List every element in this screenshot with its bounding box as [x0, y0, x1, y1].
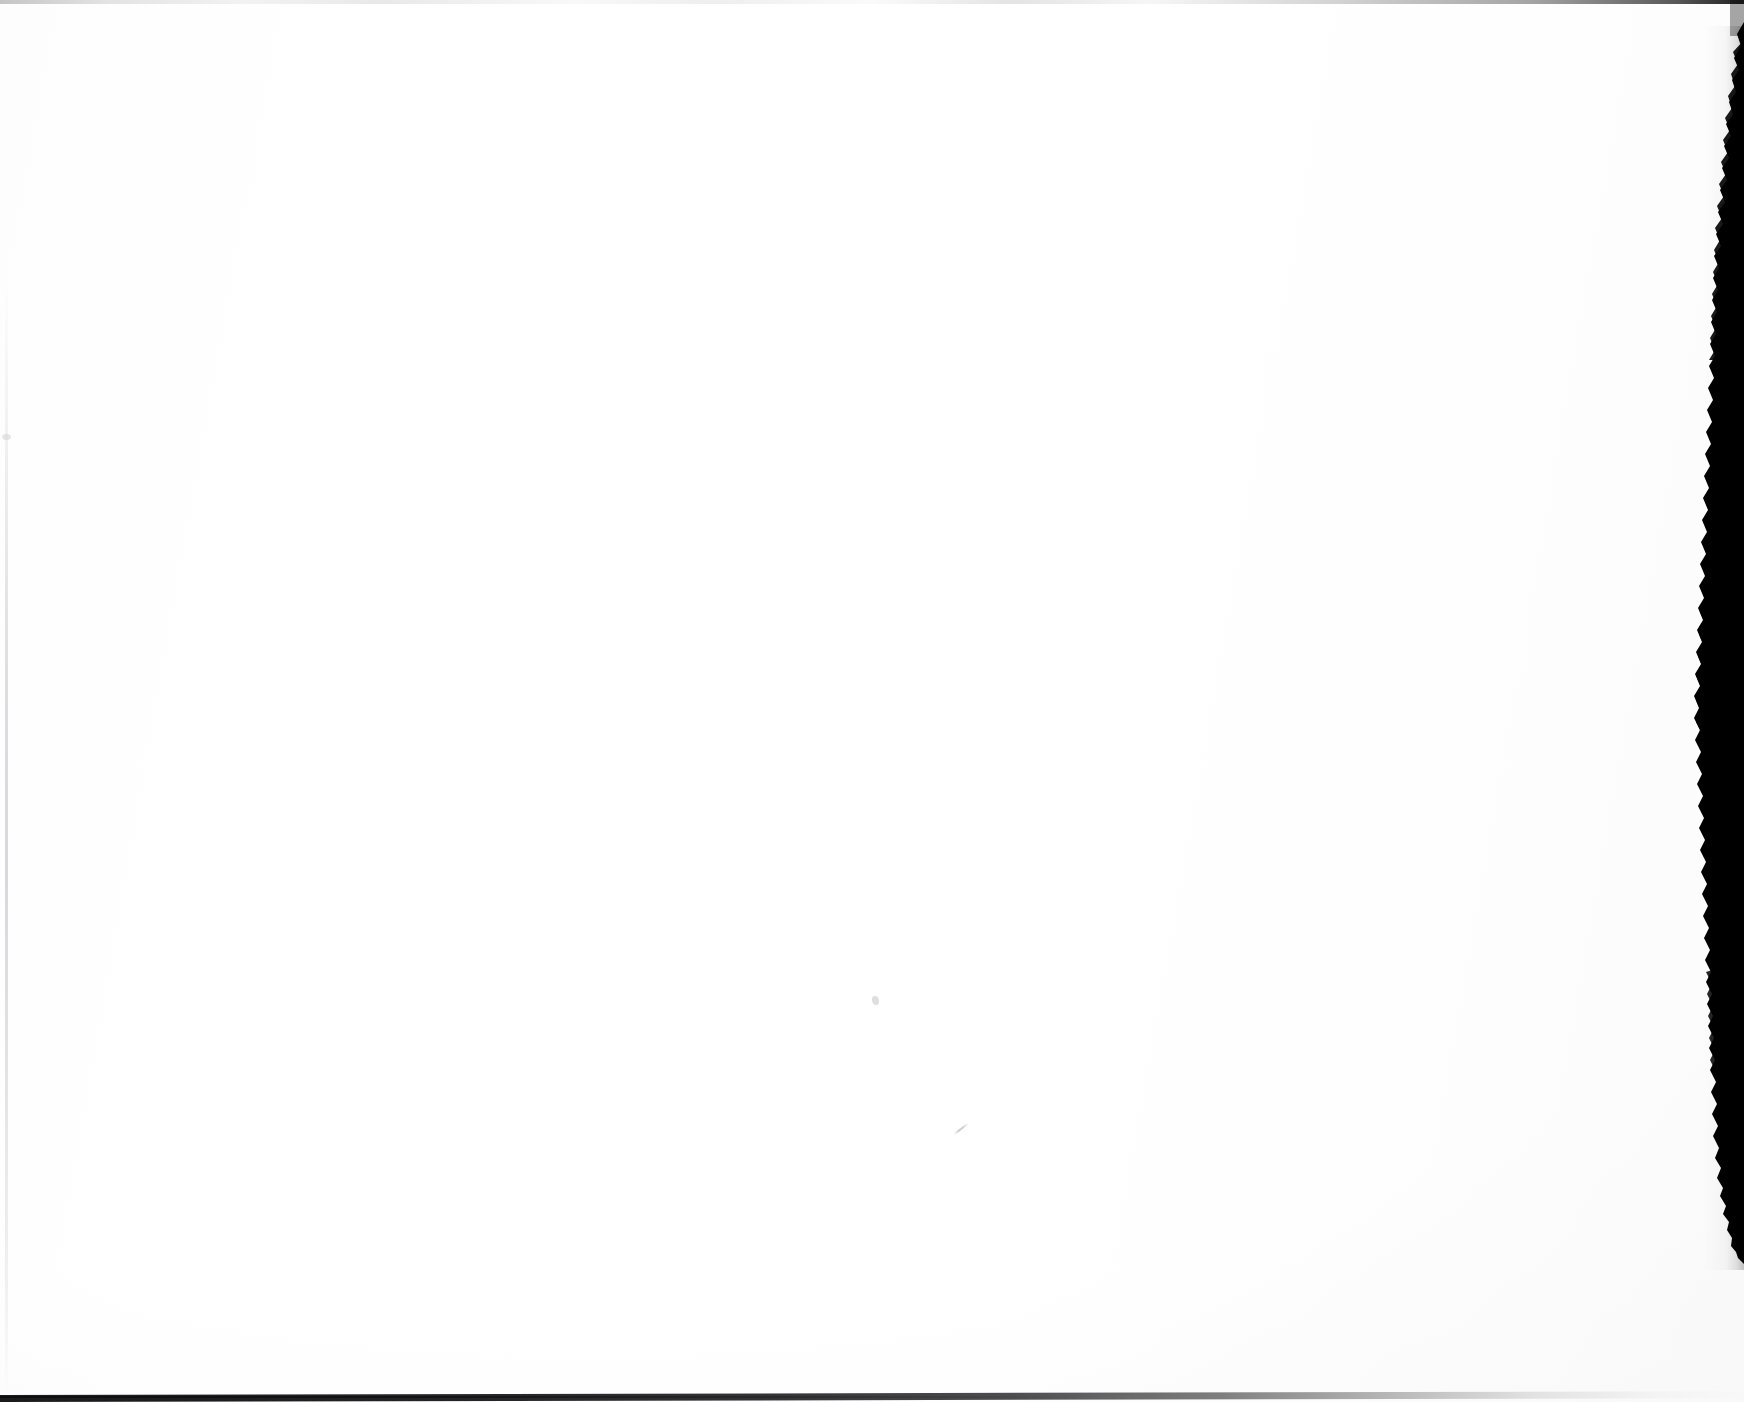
right-torn-edge-band — [1684, 0, 1744, 1402]
top-scan-seam — [0, 0, 1744, 4]
left-scan-line — [5, 0, 8, 1402]
speck-left-margin — [2, 434, 11, 440]
bottom-scan-line — [0, 1391, 1744, 1402]
paper-vignette — [0, 0, 1744, 1402]
scanned-page — [0, 0, 1744, 1402]
paper-surface — [0, 0, 1744, 1402]
speck-center — [872, 996, 879, 1005]
right-torn-edge-shape — [1684, 0, 1744, 1402]
right-edge-halo — [1704, 26, 1744, 1270]
bottom-scan-hairline — [0, 1396, 1130, 1398]
stroke-diagonal — [953, 1123, 968, 1136]
